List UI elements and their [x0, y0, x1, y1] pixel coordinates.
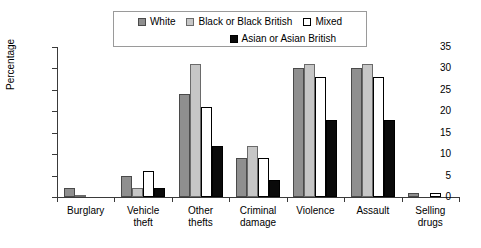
bar-group: [344, 47, 401, 197]
bar: [132, 188, 143, 197]
bar: [362, 64, 373, 197]
bar: [351, 68, 362, 197]
x-tick-label: Selling drugs: [402, 205, 459, 229]
bar-group: [402, 47, 459, 197]
bar: [258, 158, 269, 197]
legend-entry-white: White: [138, 17, 176, 27]
x-tick-mark: [344, 197, 345, 202]
bar-group: [287, 47, 344, 197]
bar-chart: White Black or Black British Mixed Asian…: [0, 0, 481, 248]
x-tick-label: Other thefts: [172, 205, 229, 229]
x-tick-label: Assault: [344, 205, 401, 217]
x-tick-mark: [57, 197, 58, 202]
bar: [269, 180, 280, 197]
bar: [154, 188, 165, 197]
bar-group: [172, 47, 229, 197]
bar: [373, 77, 384, 197]
x-tick-mark: [172, 197, 173, 202]
bar: [293, 68, 304, 197]
x-axis-line: [57, 197, 459, 198]
x-tick-label: Burglary: [57, 205, 114, 217]
legend-entry-black: Black or Black British: [186, 17, 292, 27]
legend-row-2: Asian or Asian British: [114, 30, 366, 47]
legend-swatch-black-icon: [186, 18, 194, 26]
x-tick-mark: [287, 197, 288, 202]
legend-swatch-white-icon: [138, 18, 146, 26]
legend-entry-mixed: Mixed: [303, 17, 342, 27]
legend-entry-asian: Asian or Asian British: [230, 34, 337, 44]
chart-legend: White Black or Black British Mixed Asian…: [113, 11, 367, 47]
bar: [75, 195, 86, 197]
bar: [121, 176, 132, 197]
bar: [384, 120, 395, 197]
bar: [326, 120, 337, 197]
bar: [408, 193, 419, 197]
x-tick-mark: [229, 197, 230, 202]
legend-label-white: White: [150, 17, 176, 27]
bar: [430, 193, 441, 197]
bar: [315, 77, 326, 197]
y-axis-title: Percentage: [6, 39, 16, 90]
x-tick-mark: [114, 197, 115, 202]
legend-swatch-mixed-icon: [303, 18, 311, 26]
bar: [236, 158, 247, 197]
bar-group: [114, 47, 171, 197]
bar-group: [57, 47, 114, 197]
x-tick-label: Violence: [287, 205, 344, 217]
x-axis-labels: BurglaryVehicle theftOther theftsCrimina…: [57, 205, 459, 247]
bar-group: [229, 47, 286, 197]
legend-swatch-asian-icon: [230, 35, 238, 43]
x-tick-mark: [459, 197, 460, 202]
bar: [190, 64, 201, 197]
bar: [201, 107, 212, 197]
legend-label-black: Black or Black British: [198, 17, 292, 27]
x-tick-label: Vehicle theft: [114, 205, 171, 229]
bar: [179, 94, 190, 197]
bar: [247, 146, 258, 197]
bar: [64, 188, 75, 197]
legend-row-1: White Black or Black British Mixed: [114, 13, 366, 30]
bar: [304, 64, 315, 197]
x-tick-mark: [402, 197, 403, 202]
bar: [143, 171, 154, 197]
x-tick-label: Criminal damage: [229, 205, 286, 229]
plot-area: 05101520253035: [57, 47, 459, 197]
legend-label-asian: Asian or Asian British: [242, 34, 337, 44]
legend-label-mixed: Mixed: [315, 17, 342, 27]
bar: [212, 146, 223, 197]
